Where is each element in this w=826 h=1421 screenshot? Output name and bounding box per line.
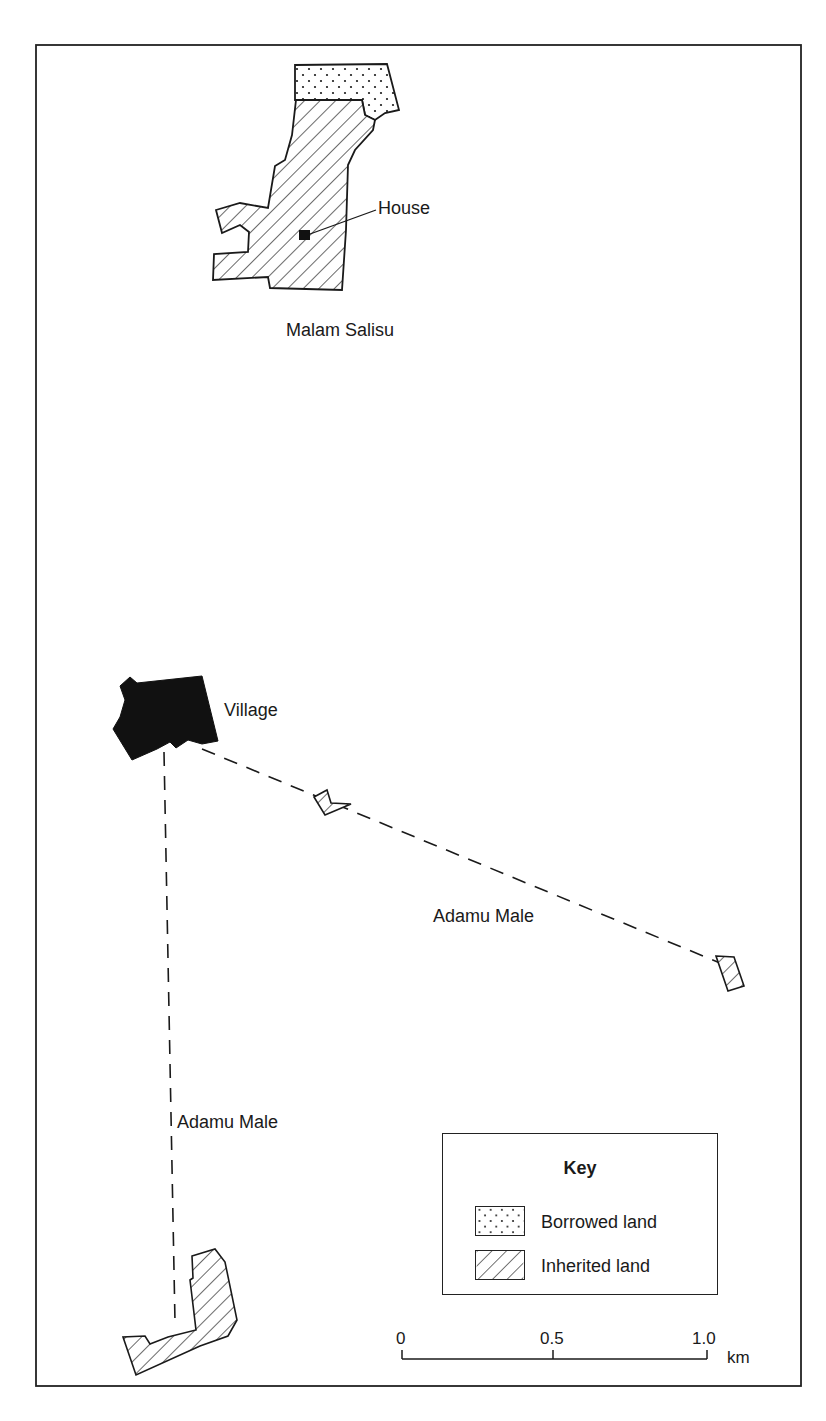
adamu-male-plot-small [314,790,351,815]
key-label-inherited: Inherited land [541,1256,650,1277]
path-to-east-plots [202,749,720,963]
scale-tick-1-0: 1.0 [692,1329,716,1349]
scale-tick-0-5: 0.5 [540,1329,564,1349]
scale-unit: km [727,1348,750,1368]
path-to-south-plot [164,752,175,1322]
key-label-borrowed: Borrowed land [541,1212,657,1233]
borrowed-land-swatch-icon [475,1206,525,1236]
village-area [113,676,218,760]
scale-bar [402,1350,707,1359]
malam-salisu-inherited-land [213,100,375,290]
adamu-male-plot-south [123,1249,237,1375]
inherited-land-swatch-icon [475,1250,525,1280]
key-title: Key [443,1158,717,1179]
village-label: Village [224,701,278,719]
adamu-male-label-east: Adamu Male [433,907,534,925]
house-marker [299,230,310,240]
adamu-male-label-south: Adamu Male [177,1113,278,1131]
adamu-male-plot-far-east [716,956,744,991]
map-key: Key Borrowed land Inherited land [442,1133,718,1295]
malam-salisu-label: Malam Salisu [286,321,394,339]
house-label: House [378,199,430,217]
scale-tick-0: 0 [396,1329,405,1349]
